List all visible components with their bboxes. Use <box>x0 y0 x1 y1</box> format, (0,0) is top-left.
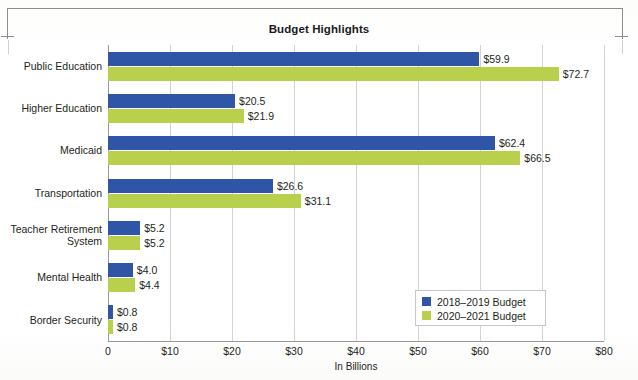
bar-value-label: $0.8 <box>117 320 137 334</box>
x-tick-label: $20 <box>223 345 241 357</box>
category-label: Public Education <box>0 60 102 73</box>
bar-value-label: $72.7 <box>563 67 589 81</box>
bar <box>108 67 559 81</box>
x-tick-label: $30 <box>285 345 303 357</box>
gridline-80 <box>604 45 605 341</box>
bar <box>108 52 479 66</box>
x-tick-label: 0 <box>105 345 111 357</box>
bar-value-label: $5.2 <box>144 236 164 250</box>
legend-swatch-icon <box>422 297 431 306</box>
category-label: Higher Education <box>0 102 102 115</box>
bar-group: $5.2$5.2 <box>108 221 604 250</box>
bar <box>108 151 520 165</box>
bar-value-label: $0.8 <box>117 305 137 319</box>
category-label: Medicaid <box>0 144 102 157</box>
x-tick-label: $80 <box>595 345 613 357</box>
bar <box>108 320 113 334</box>
bar-value-label: $4.0 <box>137 263 157 277</box>
bar-chart: Budget Highlights Public EducationHigher… <box>0 0 638 380</box>
x-axis-title: In Billions <box>108 361 604 372</box>
bar <box>108 179 273 193</box>
chart-legend: 2018–2019 Budget2020–2021 Budget <box>415 290 546 326</box>
x-tick-label: $40 <box>347 345 365 357</box>
bar-group: $4.0$4.4 <box>108 263 604 292</box>
bar-value-label: $26.6 <box>277 179 303 193</box>
bar-group: $62.4$66.5 <box>108 136 604 165</box>
bar <box>108 263 133 277</box>
legend-item[interactable]: 2018–2019 Budget <box>422 295 539 308</box>
legend-label: 2018–2019 Budget <box>437 296 526 308</box>
bar-value-label: $59.9 <box>483 52 509 66</box>
legend-label: 2020–2021 Budget <box>437 310 526 322</box>
bar <box>108 194 301 208</box>
bar <box>108 136 495 150</box>
x-tick-label: $50 <box>409 345 427 357</box>
bar-value-label: $66.5 <box>524 151 550 165</box>
bar <box>108 236 140 250</box>
bar-group: $20.5$21.9 <box>108 94 604 123</box>
bar-group: $59.9$72.7 <box>108 52 604 81</box>
legend-swatch-icon <box>422 311 431 320</box>
bar <box>108 221 140 235</box>
category-axis-labels: Public EducationHigher EducationMedicaid… <box>0 45 102 341</box>
category-label: Transportation <box>0 187 102 200</box>
bar <box>108 94 235 108</box>
bar-value-label: $31.1 <box>305 194 331 208</box>
category-label: Mental Health <box>0 271 102 284</box>
bar <box>108 278 135 292</box>
bar-value-label: $21.9 <box>248 109 274 123</box>
bar-value-label: $62.4 <box>499 136 525 150</box>
chart-title: Budget Highlights <box>0 23 638 35</box>
legend-item[interactable]: 2020–2021 Budget <box>422 309 539 322</box>
bar <box>108 305 113 319</box>
x-tick-label: $70 <box>533 345 551 357</box>
bar-group: $26.6$31.1 <box>108 179 604 208</box>
bar-value-label: $4.4 <box>139 278 159 292</box>
x-tick-label: $10 <box>161 345 179 357</box>
bar-value-label: $5.2 <box>144 221 164 235</box>
bar-value-label: $20.5 <box>239 94 265 108</box>
category-label: Teacher Retirement System <box>0 223 102 248</box>
bar <box>108 109 244 123</box>
category-label: Border Security <box>0 314 102 327</box>
x-tick-label: $60 <box>471 345 489 357</box>
x-axis-line <box>108 341 604 342</box>
